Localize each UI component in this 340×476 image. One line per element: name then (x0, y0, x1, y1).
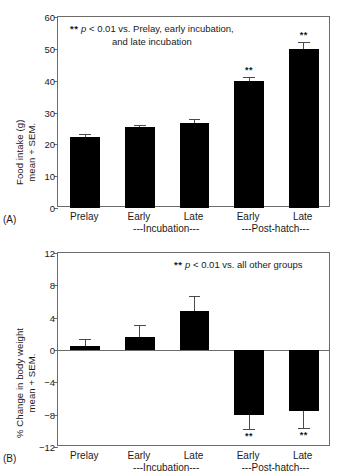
y-axis-tick-label: 0 (50, 203, 55, 214)
x-axis-tick-label: Late (184, 211, 203, 222)
bar (125, 127, 155, 208)
bar (70, 346, 100, 350)
significance-annotation: ** p < 0.01 vs. Prelay, early incubation… (70, 22, 234, 48)
panel-b-y-axis-label-line1: % Change in body weight (14, 328, 25, 438)
panel-a-label: (A) (3, 214, 16, 225)
x-axis-tick-label: Early (127, 211, 150, 222)
x-axis-group-label: ---Post-hatch--- (241, 462, 309, 473)
x-axis-tick-label: Early (237, 211, 260, 222)
y-axis-tick-label: −4 (44, 377, 55, 388)
x-axis-group-label: ---Incubation--- (133, 462, 199, 473)
bar (289, 350, 319, 411)
error-bar-cap (243, 77, 255, 78)
x-axis-group-label: ---Post-hatch--- (241, 223, 309, 234)
y-axis-tick-label: 60 (44, 12, 55, 23)
error-bar (303, 42, 304, 49)
y-axis-tick-label: 30 (44, 107, 55, 118)
panel-a-y-axis-label-line1: Food intake (g) (14, 120, 25, 185)
x-axis-tick-label: Late (184, 450, 203, 461)
significance-marker: ** (300, 31, 308, 40)
y-axis-tick-label: 10 (44, 171, 55, 182)
y-axis-tick-label: 20 (44, 139, 55, 150)
error-bar-cap (189, 119, 201, 120)
error-bar (194, 296, 195, 311)
error-bar-cap (79, 339, 91, 340)
annotation-line-1: ** p < 0.01 vs. all other groups (174, 258, 303, 271)
y-axis-tick-label: 8 (50, 280, 55, 291)
x-axis-tick-label: Prelay (70, 211, 98, 222)
error-bar-cap (134, 125, 146, 126)
error-bar (303, 411, 304, 428)
x-axis-tick-label: Late (293, 211, 312, 222)
error-bar-cap (134, 325, 146, 326)
error-bar-cap (189, 296, 201, 297)
panel-b-y-axis-label: % Change in body weight mean + SEM. (14, 328, 37, 438)
panel-b-label: (B) (3, 453, 16, 464)
figure-container: Food intake (g) mean + SEM. 010203040506… (0, 0, 340, 476)
panel-a: Food intake (g) mean + SEM. 010203040506… (0, 0, 340, 238)
y-axis-tick-label: 40 (44, 75, 55, 86)
x-axis-group-label: ---Incubation--- (133, 223, 199, 234)
y-axis-tick-label: 12 (44, 248, 55, 259)
error-bar-cap (79, 134, 91, 135)
annotation-line-2: and late incubation (70, 35, 234, 48)
bar (234, 350, 264, 415)
significance-annotation: ** p < 0.01 vs. all other groups (174, 258, 303, 271)
y-axis-tick-label: −12 (39, 442, 55, 453)
annotation-text: < 0.01 vs. Prelay, early incubation, (86, 23, 233, 34)
y-axis-tick-label: 4 (50, 312, 55, 323)
significance-marker: ** (300, 431, 308, 440)
x-axis-tick-label: Prelay (70, 450, 98, 461)
bar (125, 337, 155, 350)
error-bar (139, 325, 140, 337)
bar (70, 137, 100, 208)
x-axis-tick-label: Late (293, 450, 312, 461)
y-axis-tick-label: −8 (44, 409, 55, 420)
bar (234, 81, 264, 208)
annotation-line-1: ** p < 0.01 vs. Prelay, early incubation… (70, 22, 234, 35)
significance-marker: ** (245, 432, 253, 441)
bar (180, 123, 210, 208)
panel-b: % Change in body weight mean + SEM. −12−… (0, 238, 340, 476)
error-bar (249, 415, 250, 429)
panel-b-plot-area: −12−8−404812**** (57, 252, 330, 446)
error-bar-cap (298, 428, 310, 429)
bar (289, 49, 319, 208)
panel-a-y-axis-label: Food intake (g) mean + SEM. (14, 120, 37, 185)
x-axis-tick-label: Early (237, 450, 260, 461)
panel-b-y-axis-label-line2: mean + SEM. (26, 328, 38, 438)
annotation-text: < 0.01 vs. all other groups (190, 259, 302, 270)
error-bar-cap (298, 42, 310, 43)
y-axis-tick-label: 50 (44, 43, 55, 54)
error-bar-cap (243, 429, 255, 430)
y-axis-tick-label: 0 (50, 345, 55, 356)
significance-marker: ** (245, 66, 253, 75)
panel-a-y-axis-label-line2: mean + SEM. (26, 120, 38, 185)
bar (180, 311, 210, 350)
x-axis-tick-label: Early (127, 450, 150, 461)
